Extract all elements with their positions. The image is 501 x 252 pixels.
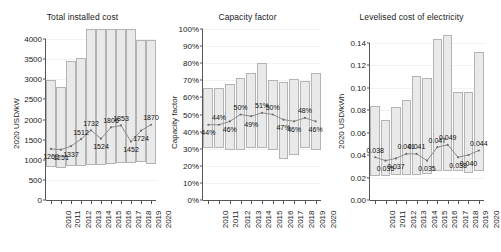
x-tick-label: 2010 xyxy=(221,211,230,229)
x-tick-label: 2019 xyxy=(481,211,490,229)
x-tick-mark xyxy=(386,201,387,204)
x-tick-mark xyxy=(71,201,72,204)
chart-title: Levelised cost of electricity xyxy=(330,12,493,22)
x-tick-label: 2017 xyxy=(461,211,470,229)
x-tick-mark xyxy=(91,201,92,204)
x-tick-mark xyxy=(208,201,209,204)
y-tick-label: 0.06 xyxy=(350,128,366,137)
y-tick-label: 0.14 xyxy=(350,38,366,47)
x-tick-mark xyxy=(151,201,152,204)
chart-panel-3: Levelised cost of electricity2020 USD/kW… xyxy=(330,0,493,252)
x-tick-mark xyxy=(479,201,480,204)
y-tick-label: 70% xyxy=(183,76,199,85)
data-point-label: 1732 xyxy=(83,119,99,126)
data-point-label: 49% xyxy=(244,120,258,127)
x-tick-label: 2019 xyxy=(154,211,163,229)
x-tick-mark xyxy=(230,201,231,204)
y-tick-label: 3500 xyxy=(24,55,42,64)
y-tick-label: 30% xyxy=(183,144,199,153)
x-tick-mark xyxy=(305,201,306,204)
x-tick-label: 2014 xyxy=(104,211,113,229)
x-tick-mark xyxy=(131,201,132,204)
data-point-label: 46% xyxy=(287,125,301,132)
x-tick-mark xyxy=(458,201,459,204)
y-tick-label: 500 xyxy=(29,175,42,184)
y-tick-label: 0% xyxy=(187,196,199,205)
data-point-label: 50% xyxy=(266,104,280,111)
y-tick-label: 3000 xyxy=(24,75,42,84)
y-tick-label: 0.00 xyxy=(350,196,366,205)
data-point-label: 50% xyxy=(234,104,248,111)
x-tick-label: 2013 xyxy=(253,211,262,229)
x-tick-mark xyxy=(437,201,438,204)
x-tick-mark xyxy=(81,201,82,204)
data-point-label: 1870 xyxy=(143,114,159,121)
y-tick-label: 50% xyxy=(183,110,199,119)
y-axis-label: 2020 USD/kW xyxy=(12,98,21,149)
x-tick-label: 2018 xyxy=(471,211,480,229)
x-tick-label: 2011 xyxy=(73,211,82,228)
y-tick-label: 0 xyxy=(38,196,42,205)
y-tick-label: 100% xyxy=(179,25,199,34)
y-tick-label: 80% xyxy=(183,59,199,68)
x-tick-mark xyxy=(448,201,449,204)
x-tick-label: 2012 xyxy=(84,211,93,229)
x-tick-mark xyxy=(219,201,220,204)
y-tick-label: 1000 xyxy=(24,155,42,164)
data-point-label: 0.037 xyxy=(387,162,405,169)
x-tick-mark xyxy=(294,201,295,204)
x-tick-label: 2011 xyxy=(231,211,240,228)
x-tick-mark xyxy=(273,201,274,204)
x-tick-label: 2014 xyxy=(264,211,273,229)
x-tick-mark xyxy=(111,201,112,204)
data-point-label: 0.035 xyxy=(418,165,436,172)
data-point-label: 0.049 xyxy=(439,134,457,141)
plot-area: 0500100015002000250030003500400012691251… xyxy=(46,29,156,200)
y-tick-label: 90% xyxy=(183,42,199,51)
x-tick-mark xyxy=(283,201,284,204)
chart-title: Total installed cost xyxy=(0,12,165,22)
data-point-label: 1724 xyxy=(133,135,149,142)
x-tick-mark xyxy=(241,201,242,204)
chart-panel-1: Total installed cost2020 USD/kW050010001… xyxy=(0,0,165,252)
x-tick-label: 2018 xyxy=(144,211,153,229)
x-tick-mark xyxy=(101,201,102,204)
x-tick-label: 2015 xyxy=(114,211,123,229)
y-axis-label: 2020 USD/kWh xyxy=(337,93,346,148)
x-tick-mark xyxy=(375,201,376,204)
x-tick-label: 2014 xyxy=(429,211,438,229)
x-tick-mark xyxy=(396,201,397,204)
y-tick-label: 20% xyxy=(183,161,199,170)
x-tick-label: 2013 xyxy=(94,211,103,229)
y-tick-label: 0.02 xyxy=(350,173,366,182)
x-tick-mark xyxy=(141,201,142,204)
y-tick-label: 0.08 xyxy=(350,106,366,115)
x-tick-label: 2017 xyxy=(134,211,143,229)
data-point-label: 0.041 xyxy=(408,143,426,150)
x-tick-label: 2016 xyxy=(286,211,295,229)
x-tick-label: 2013 xyxy=(419,211,428,229)
chart-panel-2: Capacity factorCapacity factor0%10%20%30… xyxy=(165,0,330,252)
y-tick-label: 2000 xyxy=(24,115,42,124)
y-tick-label: 1500 xyxy=(24,135,42,144)
data-point-label: 46% xyxy=(223,125,237,132)
x-tick-mark xyxy=(262,201,263,204)
x-tick-label: 2011 xyxy=(398,211,407,228)
x-tick-mark xyxy=(251,201,252,204)
x-tick-mark xyxy=(51,201,52,204)
trend-line xyxy=(370,29,484,200)
x-tick-label: 2016 xyxy=(450,211,459,229)
data-point-label: 0.040 xyxy=(460,159,478,166)
x-tick-label: 2012 xyxy=(243,211,252,229)
y-tick-label: 4000 xyxy=(24,35,42,44)
x-tick-mark xyxy=(61,201,62,204)
y-tick-label: 0.12 xyxy=(350,61,366,70)
x-tick-label: 2010 xyxy=(64,211,73,229)
x-tick-label: 2018 xyxy=(307,211,316,229)
y-tick-label: 0.04 xyxy=(350,151,366,160)
x-tick-label: 2016 xyxy=(124,211,133,229)
data-point-label: 48% xyxy=(298,107,312,114)
x-tick-mark xyxy=(121,201,122,204)
data-point-label: 44% xyxy=(201,129,215,136)
